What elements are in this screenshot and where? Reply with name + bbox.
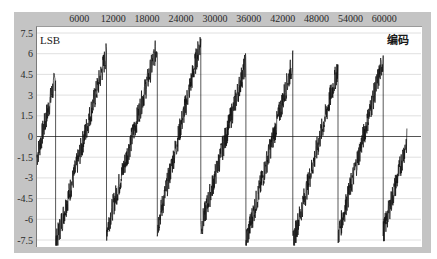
x-tick-label: 30000 — [202, 13, 227, 24]
y-tick-label: 6 — [28, 48, 33, 59]
y-tick-label: 7.5 — [21, 28, 34, 39]
y-tick-label: -7.5 — [17, 235, 33, 246]
series-path — [37, 37, 407, 245]
y-tick-label: -4.5 — [17, 193, 33, 204]
y-unit-label: LSB — [40, 34, 60, 46]
x-tick-label: 18000 — [135, 13, 160, 24]
y-tick-label: 4.5 — [21, 69, 34, 80]
sawtooth-chart: 7.564.531.50-1.5-3-4.5-6-7.5 60001200018… — [0, 0, 437, 259]
x-tick-label: 54000 — [338, 13, 363, 24]
x-tick-label: 12000 — [101, 13, 126, 24]
y-tick-label: 0 — [28, 131, 33, 142]
x-tick-label: 6000 — [69, 13, 89, 24]
legend-label: 编码 — [387, 33, 409, 47]
x-axis-ticks: 6000120001800024000300003600042000480005… — [69, 13, 396, 24]
y-tick-label: -3 — [25, 172, 33, 183]
x-tick-label: 24000 — [169, 13, 194, 24]
y-axis-ticks: 7.564.531.50-1.5-3-4.5-6-7.5 — [17, 28, 33, 246]
y-tick-label: 1.5 — [21, 110, 34, 121]
y-tick-label: -1.5 — [17, 152, 33, 163]
y-tick-label: 3 — [28, 90, 33, 101]
y-tick-label: -6 — [25, 214, 33, 225]
x-tick-label: 60000 — [372, 13, 397, 24]
x-tick-label: 36000 — [236, 13, 261, 24]
series-line — [37, 37, 407, 245]
x-tick-label: 42000 — [270, 13, 295, 24]
x-tick-label: 48000 — [304, 13, 329, 24]
